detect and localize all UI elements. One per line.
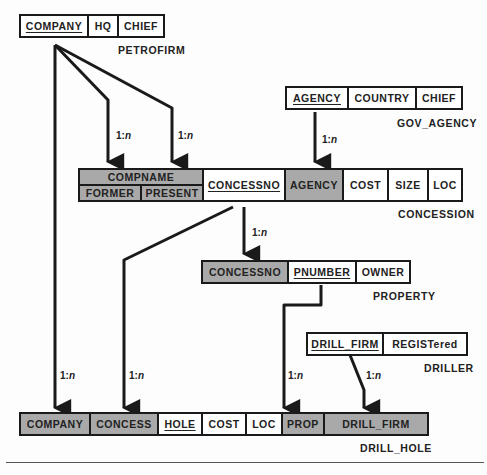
table-gov-agency: AGENCY COUNTRY CHIEF [285, 86, 463, 110]
table-concession: COMPNAME FORMER PRESENT CONCESSNO AGENCY… [78, 168, 463, 202]
relation-name-driller: DRILLER [424, 362, 474, 374]
field-hole: HOLE [159, 414, 203, 434]
cardinality-label: 1:n [252, 227, 267, 238]
relation-name-property: PROPERTY [373, 290, 436, 302]
cardinality-label: 1:n [60, 370, 75, 381]
field-group-compname: COMPNAME FORMER PRESENT [80, 170, 204, 200]
table-petrofirm: COMPANY HQ CHIEF [19, 14, 165, 38]
field-drill-firm: DRILL_FIRM [308, 334, 384, 354]
relation-name-petrofirm: PETROFIRM [118, 44, 185, 56]
cardinality-label: 1:n [116, 130, 131, 141]
cardinality-label: 1:n [322, 134, 337, 145]
field-cost: COST [344, 170, 389, 200]
field-company: COMPANY [21, 16, 89, 36]
cardinality-label: 1:n [288, 370, 303, 381]
field-company: COMPANY [21, 414, 91, 434]
relation-name-concession: CONCESSION [398, 208, 475, 220]
field-concess: CONCESS [91, 414, 159, 434]
field-present: PRESENT [142, 186, 202, 200]
field-country: COUNTRY [349, 88, 417, 108]
cardinality-label: 1:n [129, 370, 144, 381]
field-cost: COST [203, 414, 247, 434]
table-drill-hole: COMPANY CONCESS HOLE COST LOC PROP DRILL… [19, 412, 429, 436]
relation-name-gov-agency: GOV_AGENCY [397, 117, 477, 129]
cardinality-label: 1:n [178, 130, 193, 141]
divider-rule [6, 462, 484, 463]
field-owner: OWNER [357, 262, 409, 282]
field-hq: HQ [89, 16, 119, 36]
relation-name-drill-hole: DRILL_HOLE [360, 442, 432, 454]
field-size: SIZE [389, 170, 429, 200]
field-concessno: CONCESSNO [204, 170, 286, 200]
cardinality-label: 1:n [366, 370, 381, 381]
field-prop: PROP [283, 414, 325, 434]
field-registered: REGISTered [384, 334, 466, 354]
field-agency: AGENCY [286, 170, 344, 200]
field-loc: LOC [429, 170, 461, 200]
field-agency: AGENCY [287, 88, 349, 108]
field-drill-firm: DRILL_FIRM [325, 414, 427, 434]
field-compname: COMPNAME [80, 170, 202, 186]
table-property: CONCESSNO PNUMBER OWNER [201, 260, 411, 284]
field-pnumber: PNUMBER [289, 262, 357, 282]
field-loc: LOC [247, 414, 283, 434]
field-concessno: CONCESSNO [203, 262, 289, 282]
table-driller: DRILL_FIRM REGISTered [306, 332, 468, 356]
relationship-lines [0, 0, 487, 475]
field-former: FORMER [80, 186, 142, 200]
field-chief: CHIEF [417, 88, 461, 108]
field-chief: CHIEF [119, 16, 163, 36]
